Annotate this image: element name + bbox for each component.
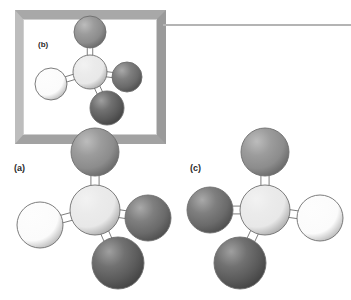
atom-left-dark [187,187,233,233]
atom-right-dark [112,62,142,92]
atom-top [74,16,106,48]
central-atom [73,55,107,89]
molecule-c [180,120,346,292]
atom-left-white [17,202,63,248]
molecular-figure: (b) (a) (c) [0,0,351,300]
panel-label-c: (c) [190,163,201,173]
panel-label-b: (b) [38,40,48,49]
atom-right-dark [125,195,171,241]
panel-label-a: (a) [14,163,25,173]
atom-bottom-dark [90,91,124,125]
central-atom [70,185,120,235]
molecule-b [24,16,145,128]
leader-line [163,24,351,26]
central-atom [240,185,290,235]
atom-top [71,128,119,176]
atom-bottom-dark [214,237,266,289]
atom-bottom-dark [92,237,144,289]
atom-left-white [35,68,67,100]
atom-right-white [297,195,343,241]
molecule-a [0,130,174,292]
atom-top [241,128,289,176]
